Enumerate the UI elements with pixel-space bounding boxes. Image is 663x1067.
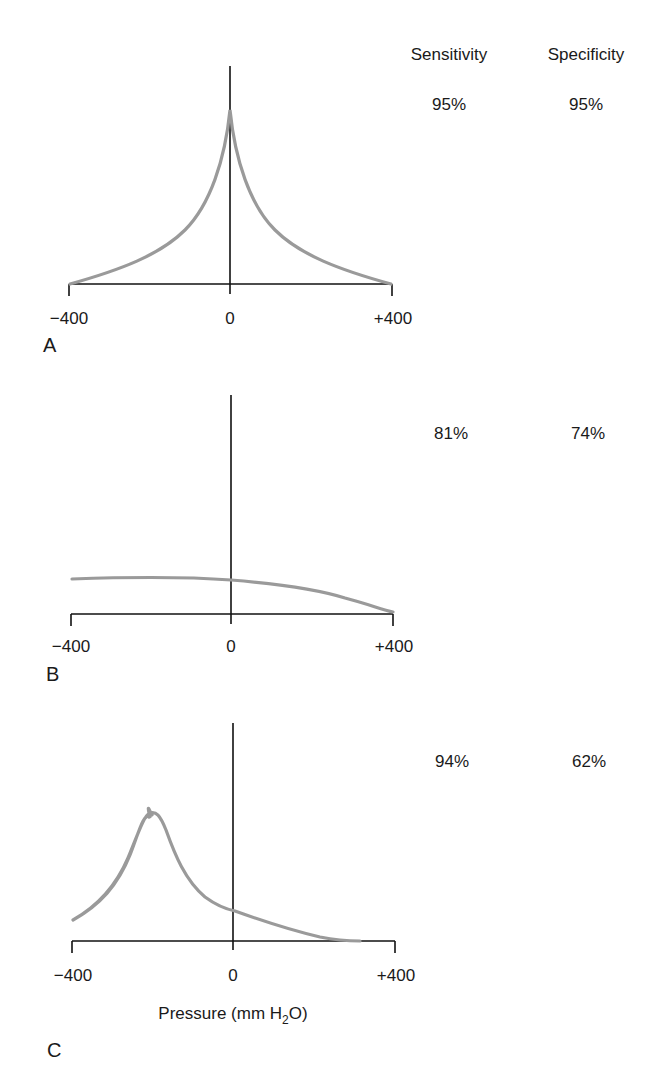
tick-label-min-b: −400 bbox=[52, 637, 90, 656]
curve-b bbox=[72, 578, 393, 612]
tick-label-max-b: +400 bbox=[375, 637, 413, 656]
panel-b: −400 0 +400 B 81% 74% bbox=[46, 395, 605, 685]
x-axis-title-main: Pressure (mm H bbox=[158, 1004, 282, 1023]
tick-label-zero-c: 0 bbox=[228, 966, 237, 985]
tick-label-min-c: −400 bbox=[54, 966, 92, 985]
panel-letter-a: A bbox=[43, 334, 57, 356]
header-sensitivity: Sensitivity bbox=[411, 45, 488, 64]
panel-a: −400 0 +400 A 95% 95% bbox=[43, 66, 603, 356]
tick-label-min-a: −400 bbox=[50, 309, 88, 328]
sensitivity-a: 95% bbox=[432, 95, 466, 114]
specificity-b: 74% bbox=[571, 424, 605, 443]
x-axis-title-end: O) bbox=[289, 1004, 308, 1023]
curve-c bbox=[73, 808, 360, 941]
specificity-a: 95% bbox=[569, 95, 603, 114]
tick-label-max-a: +400 bbox=[374, 309, 412, 328]
x-axis-title: Pressure (mm H2O) bbox=[158, 1004, 307, 1027]
tick-label-max-c: +400 bbox=[377, 966, 415, 985]
specificity-c: 62% bbox=[572, 752, 606, 771]
tympanogram-figure: Sensitivity Specificity −400 0 +400 A 95… bbox=[0, 0, 663, 1067]
tick-label-zero-a: 0 bbox=[225, 309, 234, 328]
panel-letter-c: C bbox=[47, 1039, 61, 1061]
panel-letter-b: B bbox=[46, 663, 59, 685]
tick-label-zero-b: 0 bbox=[226, 637, 235, 656]
sensitivity-b: 81% bbox=[434, 424, 468, 443]
sensitivity-c: 94% bbox=[435, 752, 469, 771]
panel-c: −400 0 +400 Pressure (mm H2O) C 94% 62% bbox=[47, 723, 606, 1061]
header-specificity: Specificity bbox=[548, 45, 625, 64]
